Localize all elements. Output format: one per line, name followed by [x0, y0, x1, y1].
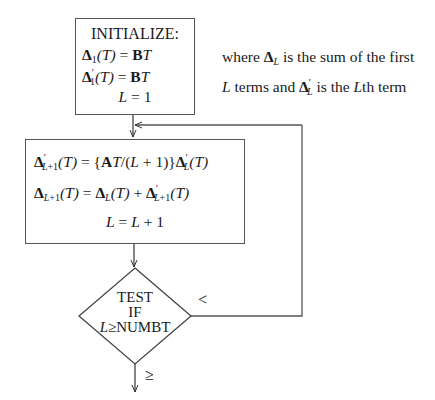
decision-text: TEST IF L≥NUMBT	[79, 290, 191, 335]
loop-update-box: Δ′L+1(T) = {AT/(L + 1)}Δ′L(T) ΔL+1(T) = …	[25, 139, 245, 244]
eq-delta-next: ΔL+1(T) = ΔL(T) + Δ′L+1(T)	[34, 183, 189, 203]
equals-sign: =	[118, 68, 127, 85]
definition-note: where ΔL is the sum of the first L terms…	[222, 46, 414, 102]
init-eq-L: L = 1	[76, 88, 194, 106]
init-eq-delta1-prime: Δ′1(T) = BT	[82, 67, 149, 87]
branch-greater-equal-label: ≥	[145, 366, 154, 384]
note-line-2: L terms and Δ′L is the Lth term	[222, 72, 414, 102]
init-eq-delta1: Δ1(T) = BT	[82, 46, 151, 65]
eq-increment-L: L = L + 1	[26, 213, 244, 231]
branch-less-than-label: <	[198, 291, 207, 309]
init-title: INITIALIZE:	[76, 25, 194, 43]
eq-delta-prime-next: Δ′L+1(T) = {AT/(L + 1)}Δ′L(T)	[34, 152, 208, 172]
equals-sign: =	[131, 88, 140, 105]
note-line-1: where ΔL is the sum of the first	[222, 46, 414, 72]
equals-sign: =	[120, 46, 129, 63]
initialize-box: INITIALIZE: Δ1(T) = BT Δ′1(T) = BT L = 1	[75, 18, 195, 115]
